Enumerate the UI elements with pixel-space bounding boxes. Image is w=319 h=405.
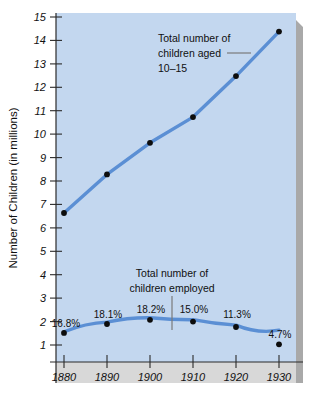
y-tick-label: 13 xyxy=(34,58,47,70)
annotation-line: 10–15 xyxy=(158,62,187,74)
y-tick-label: 3 xyxy=(40,292,47,304)
percentage-label: 4.7% xyxy=(269,329,292,340)
annotation-line: Total number of xyxy=(158,32,230,44)
y-tick-label: 1 xyxy=(40,339,46,351)
chart-figure: 1 2 3 4 5 6 7 8 9 10 11 12 13 14 15 xyxy=(0,0,319,405)
y-tick-label: 10 xyxy=(34,128,47,140)
data-point xyxy=(276,29,282,35)
y-tick-label: 15 xyxy=(34,11,47,23)
data-point xyxy=(61,210,67,216)
line-chart: 1 2 3 4 5 6 7 8 9 10 11 12 13 14 15 xyxy=(0,0,319,405)
y-tick-label: 2 xyxy=(39,316,46,328)
percentage-label: 16.8% xyxy=(52,318,80,329)
data-point xyxy=(233,324,239,330)
y-axis-title: Number of Children (in millions) xyxy=(7,107,19,268)
y-tick-label: 7 xyxy=(40,198,47,210)
annotation-line: children aged xyxy=(158,47,221,59)
annotation-line: Total number of xyxy=(136,267,208,279)
y-tick-label: 8 xyxy=(40,175,47,187)
data-point xyxy=(61,330,67,336)
percentage-label: 18.2% xyxy=(137,304,165,315)
percentage-label: 11.3% xyxy=(223,309,251,320)
y-tick-label: 4 xyxy=(40,269,46,281)
data-point xyxy=(276,341,282,347)
percentage-label: 18.1% xyxy=(94,309,122,320)
x-tick-label: 1910 xyxy=(181,371,206,383)
data-point xyxy=(147,317,153,323)
x-tick-label: 1890 xyxy=(95,371,120,383)
x-axis-band xyxy=(56,362,296,383)
data-point xyxy=(190,319,196,325)
data-point xyxy=(233,73,239,79)
y-tick-label: 12 xyxy=(34,81,46,93)
x-tick-label: 1930 xyxy=(267,371,292,383)
x-tick-label: 1880 xyxy=(52,371,77,383)
y-tick-label: 9 xyxy=(40,152,46,164)
data-point xyxy=(190,114,196,120)
y-tick-label: 5 xyxy=(40,245,47,257)
data-point xyxy=(104,321,110,327)
y-tick-label: 14 xyxy=(34,34,46,46)
y-axis-tick-labels: 1 2 3 4 5 6 7 8 9 10 11 12 13 14 15 xyxy=(34,11,47,351)
percentage-label: 15.0% xyxy=(180,304,208,315)
y-tick-label: 11 xyxy=(35,105,46,117)
x-tick-label: 1900 xyxy=(138,371,163,383)
data-point xyxy=(147,140,153,146)
x-tick-label: 1920 xyxy=(224,371,249,383)
annotation-line: children employed xyxy=(129,282,214,294)
y-tick-label: 6 xyxy=(40,222,47,234)
data-point xyxy=(104,172,110,178)
